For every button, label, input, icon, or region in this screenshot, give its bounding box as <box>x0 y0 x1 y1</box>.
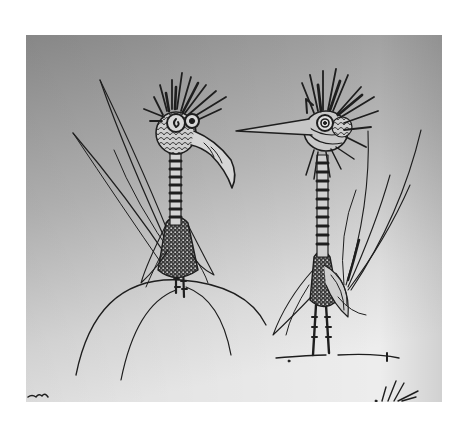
drawing-canvas <box>26 35 442 402</box>
drawing-photo: Pen-and-ink drawing of two whimsical spi… <box>26 35 442 402</box>
